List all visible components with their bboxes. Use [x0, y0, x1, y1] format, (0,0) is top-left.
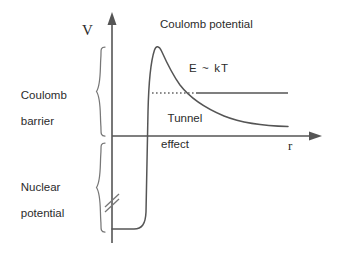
- x-axis-arrowhead: [309, 132, 322, 141]
- energy-level-label: E ~ kT: [189, 62, 229, 75]
- tunnel-effect-label-line1: Tunnel: [168, 112, 203, 124]
- y-axis-label: V: [82, 22, 93, 39]
- coulomb-barrier-diagram: V r Coulomb potential E ~ kT Tunnel effe…: [0, 0, 346, 253]
- coulomb-barrier-label-line2: barrier: [21, 115, 54, 127]
- diagram-title: Coulomb potential: [160, 18, 253, 31]
- coulomb-barrier-label-line1: Coulomb: [21, 89, 67, 101]
- y-axis-arrowhead: [108, 12, 117, 25]
- nuclear-potential-label-line1: Nuclear: [21, 181, 61, 193]
- coulomb-barrier-brace: [97, 47, 106, 136]
- nuclear-potential-label-line2: potential: [21, 207, 64, 219]
- nuclear-potential-brace: [97, 143, 106, 232]
- tunnel-effect-label: Tunnel effect: [155, 99, 202, 176]
- tunnel-effect-label-line2: effect: [155, 138, 202, 151]
- nuclear-potential-label: Nuclear potential: [8, 168, 64, 232]
- x-axis-label: r: [288, 139, 292, 154]
- coulomb-barrier-label: Coulomb barrier: [8, 76, 67, 140]
